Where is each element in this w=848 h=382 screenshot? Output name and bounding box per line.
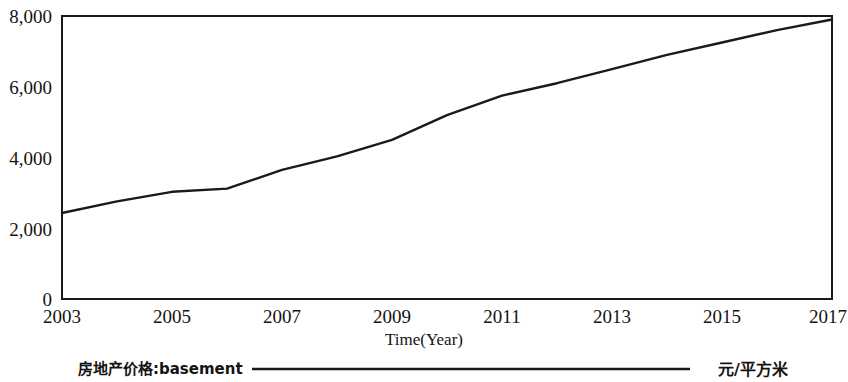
x-tick-label-2011: 2011 [483,306,520,327]
x-tick-label-2015: 2015 [703,306,741,327]
y-tick-label-8000: 8,000 [9,6,52,27]
plot-frame [62,16,832,299]
x-tick-label-2007: 2007 [263,306,301,327]
x-tick-label-2017: 2017 [809,306,847,327]
price-series-line [62,20,832,214]
chart-figure: 8,000 6,000 4,000 2,000 0 2003 2005 2007… [0,0,848,382]
x-tick-label-2003: 2003 [43,306,81,327]
x-tick-label-2009: 2009 [373,306,411,327]
real-estate-price-line-chart: 8,000 6,000 4,000 2,000 0 2003 2005 2007… [0,0,848,382]
y-tick-label-6000: 6,000 [9,77,52,98]
y-tick-label-4000: 4,000 [9,148,52,169]
legend-series-label: 房地产价格:basement [78,360,243,378]
y-tick-label-2000: 2,000 [9,219,52,240]
x-tick-label-2005: 2005 [153,306,191,327]
x-axis-title: Time(Year) [385,330,463,349]
legend-unit-label: 元/平方米 [718,360,789,379]
x-tick-label-2013: 2013 [593,306,631,327]
